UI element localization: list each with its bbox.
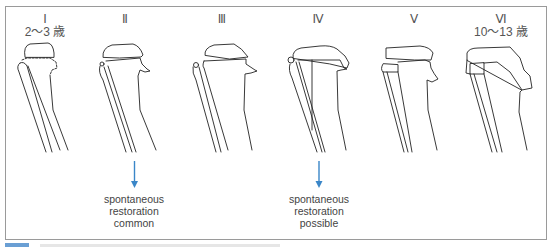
annotation-line: restoration xyxy=(79,205,189,217)
annotation-line: spontaneous xyxy=(79,193,189,205)
annotation-line: common xyxy=(79,217,189,229)
annotation-line: restoration xyxy=(264,205,374,217)
annotation-line: possible xyxy=(264,217,374,229)
annotation-stage-4: spontaneous restoration possible xyxy=(264,193,374,229)
annotation-stage-2: spontaneous restoration common xyxy=(79,193,189,229)
caption-accent-bar xyxy=(5,243,29,247)
annotation-line: spontaneous xyxy=(264,193,374,205)
